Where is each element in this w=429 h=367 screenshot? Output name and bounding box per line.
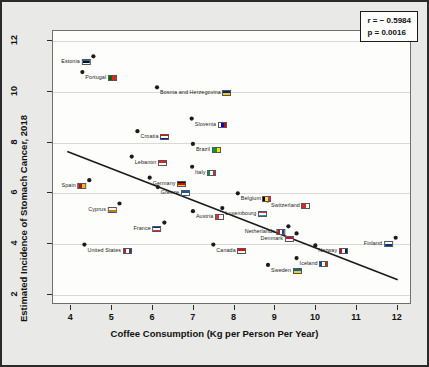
y-tick-label: 4 <box>9 236 19 250</box>
point-label-text: Portugal <box>85 75 106 81</box>
point-label-text: Canada <box>216 247 235 253</box>
point-label: Greece <box>161 190 190 196</box>
flag-icon <box>207 170 216 176</box>
scatter-point[interactable] <box>313 243 317 247</box>
flag-icon <box>293 268 302 274</box>
scatter-point[interactable] <box>190 165 194 169</box>
point-label-text: Iceland <box>300 260 318 266</box>
flag-icon <box>301 203 310 209</box>
scatter-point[interactable] <box>82 243 86 247</box>
x-tick-label: 10 <box>310 312 320 322</box>
flag-icon <box>160 134 169 140</box>
scatter-point[interactable] <box>294 231 298 235</box>
scatter-point[interactable] <box>286 224 290 228</box>
point-label-text: France <box>133 225 150 231</box>
x-tick-mark <box>152 305 153 310</box>
scatter-point[interactable] <box>220 206 224 210</box>
figure-panel: Estimated Incidence of Stomach Cancer, 2… <box>0 0 429 367</box>
scatter-point[interactable] <box>155 85 159 89</box>
scatter-point[interactable] <box>191 209 195 213</box>
point-label: Finland <box>364 241 393 247</box>
scatter-point[interactable] <box>162 220 166 224</box>
y-axis-title: Estimated Incidence of Stomach Cancer, 2… <box>18 115 29 322</box>
flag-icon <box>285 236 294 242</box>
data-layer <box>53 31 410 303</box>
scatter-point[interactable] <box>148 176 152 180</box>
point-label: Estonia <box>61 59 90 65</box>
point-label: Croatia <box>140 134 169 140</box>
point-label: Spain <box>62 183 87 189</box>
point-label-text: Austria <box>196 214 213 220</box>
scatter-point[interactable] <box>117 201 121 205</box>
point-label: Portugal <box>85 75 116 81</box>
point-label-text: Switzerland <box>271 203 300 209</box>
scatter-point[interactable] <box>130 154 134 158</box>
y-tick-label: 10 <box>9 84 19 98</box>
y-tick-label: 8 <box>9 135 19 149</box>
point-label: Germany <box>153 181 186 187</box>
scatter-point[interactable] <box>190 116 194 120</box>
point-label-text: Estonia <box>61 59 80 65</box>
flag-icon <box>319 261 328 267</box>
x-tick-label: 7 <box>190 312 195 322</box>
point-label-text: United States <box>87 247 121 253</box>
x-tick-mark <box>315 305 316 310</box>
point-label-text: Cyprus <box>88 206 106 212</box>
point-label-text: Spain <box>62 183 76 189</box>
point-label: Cyprus <box>88 207 116 213</box>
x-tick-mark <box>356 305 357 310</box>
scatter-point[interactable] <box>80 70 84 74</box>
point-label-text: Slovenia <box>195 121 216 127</box>
x-tick-mark <box>234 305 235 310</box>
statistics-box: r = − 0.5984 p = 0.0016 <box>360 11 418 42</box>
point-label-text: Bosnia and Herzegovina <box>160 90 221 96</box>
point-label: Brazil <box>196 147 221 153</box>
point-label: Slovenia <box>195 122 227 128</box>
point-label: Luxembourg <box>225 211 266 217</box>
scatter-point[interactable] <box>91 54 95 58</box>
flag-icon <box>276 229 285 235</box>
flag-icon <box>218 122 227 128</box>
flag-icon <box>339 248 348 254</box>
point-label: Belgium <box>241 196 272 202</box>
point-label: Canada <box>216 248 246 254</box>
flag-icon <box>215 214 224 220</box>
point-label-text: Italy <box>195 169 205 175</box>
point-label-text: Sweden <box>271 267 291 273</box>
x-tick-label: 9 <box>272 312 277 322</box>
point-label: France <box>133 226 161 232</box>
scatter-point[interactable] <box>135 129 139 133</box>
x-tick-label: 6 <box>149 312 154 322</box>
point-label: Lebanon <box>135 160 167 166</box>
flag-icon <box>258 211 267 217</box>
point-label-text: Greece <box>161 189 179 195</box>
scatter-point[interactable] <box>394 236 398 240</box>
flag-icon <box>181 190 190 196</box>
point-label-text: Brazil <box>196 146 210 152</box>
flag-icon <box>77 183 86 189</box>
scatter-point[interactable] <box>211 243 215 247</box>
x-tick-mark <box>397 305 398 310</box>
x-tick-label: 8 <box>231 312 236 322</box>
flag-icon <box>123 248 132 254</box>
flag-icon <box>237 248 246 254</box>
x-tick-mark <box>70 305 71 310</box>
scatter-point[interactable] <box>191 142 195 146</box>
scatter-point[interactable] <box>87 178 91 182</box>
point-label: Austria <box>196 214 224 220</box>
y-tick-label: 6 <box>9 185 19 199</box>
flag-icon <box>212 147 221 153</box>
r-value: r = − 0.5984 <box>367 15 411 27</box>
point-label: Italy <box>195 170 216 176</box>
point-label-text: Netherlands <box>245 229 275 235</box>
flag-icon <box>107 207 116 213</box>
x-tick-label: 12 <box>392 312 402 322</box>
scatter-point[interactable] <box>236 191 240 195</box>
x-tick-label: 11 <box>351 312 361 322</box>
point-label: Denmark <box>260 236 293 242</box>
scatter-point[interactable] <box>266 263 270 267</box>
point-label-text: Croatia <box>140 134 158 140</box>
point-label: Iceland <box>300 261 329 267</box>
scatter-point[interactable] <box>294 256 298 260</box>
point-label-text: Belgium <box>241 196 261 202</box>
